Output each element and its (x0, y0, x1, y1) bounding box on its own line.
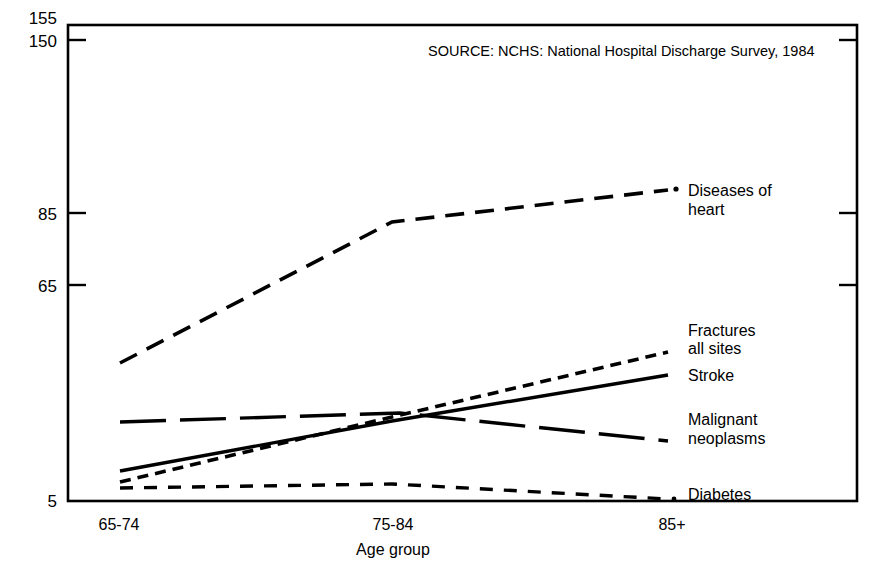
y-tick-label-85: 85 (38, 205, 57, 224)
x-tick-label-85-plus: 85+ (658, 516, 685, 533)
y-tick-label-155: 155 (29, 9, 57, 28)
y-tick-label-5: 5 (48, 492, 57, 511)
series-label-fractures-line2: all sites (688, 340, 741, 357)
series-endpoint-diseases-of-heart (673, 186, 678, 191)
chart-figure: 155 150 85 65 5 SOURCE: NCHS: National H… (0, 0, 873, 581)
y-tick-label-65: 65 (38, 277, 57, 296)
series-label-fractures-line1: Fractures (688, 322, 756, 339)
series-label-malignant-line2: neoplasms (688, 430, 765, 447)
chart-svg: 155 150 85 65 5 SOURCE: NCHS: National H… (0, 0, 873, 581)
x-tick-label-65-74: 65-74 (99, 516, 140, 533)
series-label-stroke: Stroke (688, 367, 734, 384)
series-label-diseases-of-heart-line1: Diseases of (688, 182, 772, 199)
series-label-diabetes: Diabetes (688, 486, 751, 503)
x-axis-title: Age group (356, 541, 430, 558)
y-tick-label-150: 150 (29, 32, 57, 51)
x-tick-label-75-84: 75-84 (373, 516, 414, 533)
series-endpoint-diabetes (672, 497, 677, 502)
source-note: SOURCE: NCHS: National Hospital Discharg… (428, 43, 815, 59)
series-label-malignant-line1: Malignant (688, 411, 758, 428)
series-label-diseases-of-heart-line2: heart (688, 201, 725, 218)
